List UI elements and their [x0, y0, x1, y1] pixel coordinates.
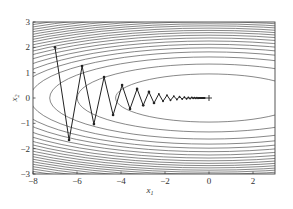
y-label-subscript: 2: [14, 95, 20, 98]
x-tick-label: 0: [207, 176, 212, 186]
minimum-marker: [206, 95, 212, 101]
x-axis-label: x1: [146, 185, 154, 196]
y-tick-label: −2: [20, 144, 30, 154]
trajectory-point: [166, 94, 168, 96]
trajectory-point: [153, 102, 156, 105]
trajectory-point: [68, 139, 71, 142]
x-tick-label: −2: [160, 176, 170, 186]
trajectory-point: [176, 99, 178, 101]
trajectory-point: [183, 96, 185, 98]
gradient-descent-contour-chart: −8−6−4−202 −3−2−10123 x1 x2: [0, 0, 293, 209]
contour-ellipse: [50, 57, 293, 139]
y-tick-label: 1: [26, 68, 31, 78]
trajectory-point: [54, 46, 57, 49]
x-tick-label: 2: [251, 176, 256, 186]
y-tick-label: 3: [26, 17, 31, 27]
y-axis-label: x2: [9, 95, 20, 103]
y-tick-label: 0: [26, 93, 31, 103]
trajectory-point: [189, 98, 191, 100]
trajectory-point: [186, 98, 188, 100]
trajectory-point: [162, 100, 164, 102]
descent-trajectory: [54, 46, 206, 141]
trajectory-point: [158, 93, 160, 95]
trajectory-point: [81, 65, 84, 68]
trajectory-point: [170, 99, 172, 101]
trajectory-point: [103, 76, 106, 79]
trajectory-point: [187, 97, 189, 99]
trajectory-point: [93, 123, 96, 126]
trajectory-point: [204, 97, 206, 99]
trajectory-point: [121, 84, 124, 87]
y-tick-label: −1: [20, 118, 30, 128]
x-tick-label: −4: [116, 176, 126, 186]
contour-ellipse: [14, 48, 293, 148]
x-label-subscript: 1: [151, 190, 154, 196]
y-tick-label: −3: [20, 169, 30, 179]
trajectory-point: [173, 95, 175, 97]
trajectory-point: [179, 96, 181, 98]
trajectory-point: [112, 114, 115, 117]
trajectory-point: [142, 104, 145, 107]
trajectory-point: [129, 108, 132, 111]
x-tick-label: −6: [72, 176, 82, 186]
trajectory-point: [148, 91, 151, 94]
trajectory-point: [136, 88, 139, 91]
y-tick-label: 2: [26, 42, 31, 52]
trajectory-point: [181, 98, 183, 100]
